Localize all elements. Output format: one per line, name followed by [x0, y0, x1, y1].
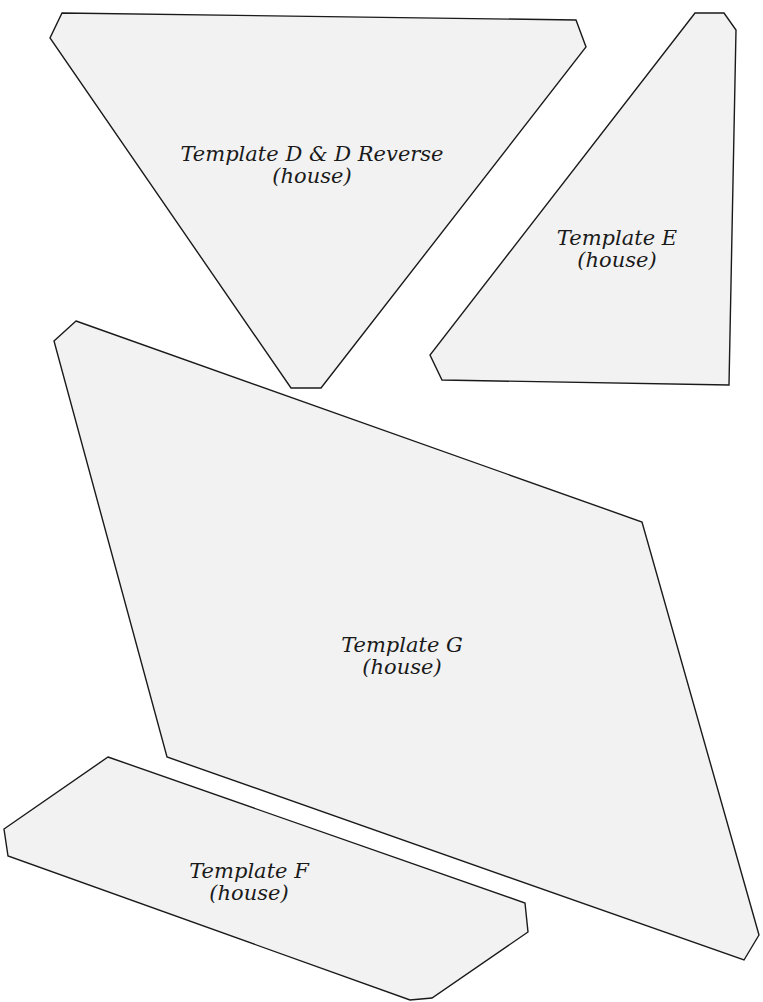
template-f-title: Template F [189, 860, 309, 882]
template-d-subtitle: (house) [180, 165, 443, 187]
template-f-label: Template F (house) [189, 860, 309, 904]
template-g-title: Template G [341, 634, 463, 656]
template-e-label: Template E (house) [557, 227, 677, 271]
template-e-title: Template E [557, 227, 677, 249]
template-d-title: Template D & D Reverse [180, 143, 443, 165]
template-f-subtitle: (house) [189, 882, 309, 904]
template-g-label: Template G (house) [341, 634, 463, 678]
template-e-subtitle: (house) [557, 249, 677, 271]
template-g-subtitle: (house) [341, 656, 463, 678]
template-d-label: Template D & D Reverse (house) [180, 143, 443, 187]
